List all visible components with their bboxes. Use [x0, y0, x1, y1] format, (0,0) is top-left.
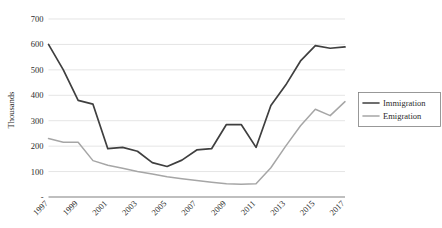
data-series-group: [49, 44, 346, 184]
x-axis-tick-label: 2011: [239, 198, 258, 217]
chart-container: -100200300400500600700 19971999200120032…: [0, 0, 442, 228]
x-axis-tick-label: 2003: [120, 198, 139, 217]
x-axis-tick-labels: 1997199920012003200520072009201120132015…: [31, 198, 347, 217]
y-axis-tick-label: 300: [31, 116, 44, 126]
legend-label-immigration: Immigration: [383, 98, 426, 108]
legend-label-emigration: Emigration: [383, 111, 422, 121]
x-axis-tick-label: 2013: [268, 198, 287, 217]
y-axis-tick-label: 100: [31, 167, 44, 177]
y-axis-tick-label: 500: [31, 65, 44, 75]
x-axis-tick-label: 1997: [31, 198, 50, 217]
gridlines-group: [49, 19, 346, 197]
x-axis-tick-label: 1999: [60, 198, 79, 217]
series-line-immigration: [49, 44, 346, 166]
x-axis-tick-label: 2009: [209, 198, 228, 217]
y-axis-tick-label: 200: [31, 141, 44, 151]
y-axis-tick-labels: -100200300400500600700: [31, 14, 44, 202]
line-chart: -100200300400500600700 19971999200120032…: [0, 0, 442, 228]
x-axis-tick-label: 2007: [179, 198, 198, 217]
x-axis-tick-label: 2017: [327, 198, 346, 217]
y-axis-title: Thousands: [6, 92, 16, 129]
x-axis-tick-label: 2005: [149, 198, 168, 217]
chart-legend: Immigration Emigration: [359, 93, 441, 127]
y-axis-tick-label: 600: [31, 39, 44, 49]
x-axis-tick-label: 2001: [90, 198, 109, 217]
y-axis-tick-label: 400: [31, 90, 44, 100]
x-axis-tick-label: 2015: [298, 198, 317, 217]
y-axis-tick-label: 700: [31, 14, 44, 24]
